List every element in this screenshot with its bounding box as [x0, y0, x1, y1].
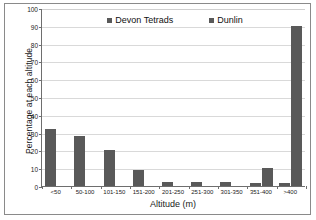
- y-tick-mark: [39, 27, 42, 28]
- y-tick-mark: [39, 9, 42, 10]
- x-axis-tick-labels: <5050-100101-150151-200201-250251-300301…: [41, 189, 305, 195]
- bar: [220, 182, 231, 186]
- y-tick-mark: [39, 62, 42, 63]
- y-tick-mark: [39, 151, 42, 152]
- bar-group: [188, 9, 217, 186]
- plot-area: [41, 9, 305, 187]
- bar: [291, 26, 302, 186]
- bar-group: [159, 9, 188, 186]
- legend-entry: Devon Tetrads: [107, 15, 173, 25]
- x-tick-mark: [306, 186, 307, 189]
- y-tick-label: 40: [18, 112, 38, 119]
- y-tick-label: 10: [18, 166, 38, 173]
- bar: [133, 170, 144, 186]
- bar-group: [100, 9, 129, 186]
- y-tick-mark: [39, 169, 42, 170]
- legend-label: Devon Tetrads: [115, 15, 173, 25]
- bar-group: [276, 9, 305, 186]
- legend-label: Dunlin: [217, 15, 243, 25]
- bar: [104, 150, 115, 186]
- legend-swatch-icon: [107, 18, 112, 23]
- y-tick-mark: [39, 80, 42, 81]
- bar-group: [130, 9, 159, 186]
- y-tick-label: 100: [18, 6, 38, 13]
- x-tick-label: 251-300: [188, 189, 217, 195]
- y-tick-mark: [39, 116, 42, 117]
- bar: [45, 129, 56, 186]
- y-tick-label: 70: [18, 59, 38, 66]
- bar-group: [42, 9, 71, 186]
- y-tick-label: 90: [18, 23, 38, 30]
- y-axis-tick-labels: 0102030405060708090100: [18, 9, 38, 187]
- bar-group: [71, 9, 100, 186]
- x-tick-label: <50: [41, 189, 70, 195]
- x-tick-label: 201-250: [158, 189, 187, 195]
- x-tick-label: 50-100: [70, 189, 99, 195]
- y-tick-label: 50: [18, 95, 38, 102]
- y-tick-label: 20: [18, 148, 38, 155]
- bar: [262, 168, 273, 186]
- y-tick-label: 30: [18, 130, 38, 137]
- x-axis-title: Altitude (m): [41, 199, 305, 209]
- bar-groups: [42, 9, 305, 186]
- bar-group: [247, 9, 276, 186]
- x-tick-label: 351-400: [246, 189, 275, 195]
- y-tick-mark: [39, 98, 42, 99]
- bar: [191, 182, 202, 186]
- bar-group: [217, 9, 246, 186]
- x-tick-label: 301-350: [217, 189, 246, 195]
- y-tick-label: 80: [18, 41, 38, 48]
- bar: [250, 183, 261, 186]
- bar: [279, 183, 290, 186]
- legend-entry: Dunlin: [209, 15, 243, 25]
- y-tick-label: 0: [18, 184, 38, 191]
- x-tick-label: >400: [276, 189, 305, 195]
- legend-swatch-icon: [209, 18, 214, 23]
- x-tick-label: 151-200: [129, 189, 158, 195]
- chart-legend: Devon TetradsDunlin: [80, 15, 270, 25]
- y-tick-label: 60: [18, 77, 38, 84]
- x-tick-label: 101-150: [100, 189, 129, 195]
- y-tick-mark: [39, 45, 42, 46]
- chart-figure: Percentage at each altitude 010203040506…: [0, 0, 316, 220]
- bar: [162, 182, 173, 186]
- y-tick-mark: [39, 134, 42, 135]
- bar: [74, 136, 85, 186]
